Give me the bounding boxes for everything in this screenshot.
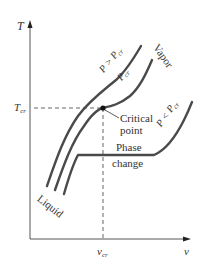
v-cr-label: vcr [97,246,108,261]
v-cr-subscript: cr [102,251,108,259]
critical-point-marker [100,105,105,110]
x-axis-label: v [184,246,189,257]
y-axis-label: T [17,21,24,32]
critical-point-leader [105,110,119,118]
x-axis-arrow-icon [183,237,191,242]
phase-change-label-line2: change [112,158,143,169]
y-axis-arrow-icon [28,20,33,28]
t-cr-label: Tcr [14,102,26,117]
phase-change-label-line1: Phase [116,142,142,153]
t-v-diagram [0,0,202,264]
t-cr-subscript: cr [20,107,26,115]
critical-point-label-line1: Critical [120,113,153,124]
critical-point-label-line2: point [120,125,143,136]
